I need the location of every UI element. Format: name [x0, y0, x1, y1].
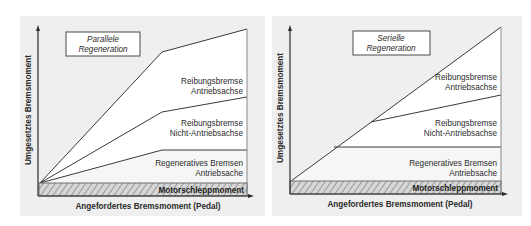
engine-drag-label: Motorschleppmoment: [158, 186, 244, 195]
region-label-friction-drive-l1: Reibungsbremse: [181, 77, 243, 86]
regeneration-comparison-figure: Motorschleppmoment Parallele Regeneratio…: [0, 0, 531, 226]
diagram-title-line2: Regeneration: [78, 45, 128, 54]
engine-drag-label: Motorschleppmoment: [412, 184, 498, 193]
diagram-serial-regeneration: Motorschleppmoment Serielle Regeneration…: [272, 16, 522, 216]
y-axis-label: Umgesetztes Bremsmoment: [24, 55, 33, 165]
region-label-friction-drive-l2: Antriebsachse: [191, 87, 243, 96]
diagram-title-line1: Serielle: [377, 34, 405, 43]
x-axis-label: Angefordertes Bremsmoment (Pedal): [75, 202, 220, 211]
y-axis-label: Umgesetztes Bremsmoment: [276, 53, 285, 163]
region-label-friction-nondrive-l2: Nicht-Antriebsachse: [424, 129, 498, 138]
region-label-friction-nondrive-l1: Reibungsbremse: [435, 119, 497, 128]
region-label-regen-l2: Antriebsache: [449, 169, 497, 178]
region-label-friction-nondrive-l2: Nicht-Antriebsachse: [170, 129, 244, 138]
region-label-friction-drive-l2: Antriebsachse: [445, 83, 497, 92]
diagram-canvas: Motorschleppmoment Parallele Regeneratio…: [0, 0, 531, 226]
diagram-title-line1: Parallele: [87, 35, 119, 44]
region-label-regen-l1: Regeneratives Bremsen: [155, 159, 243, 168]
region-label-friction-nondrive-l1: Reibungsbremse: [181, 119, 243, 128]
region-label-regen-l1: Regeneratives Bremsen: [409, 159, 497, 168]
region-label-friction-drive-l1: Reibungsbremse: [435, 73, 497, 82]
diagram-title-line2: Regeneration: [366, 44, 416, 53]
x-axis-label: Angefordertes Bremsmoment (Pedal): [327, 200, 472, 209]
diagram-parallel-regeneration: Motorschleppmoment Parallele Regeneratio…: [20, 16, 265, 216]
region-label-regen-l2: Antriebsache: [195, 169, 243, 178]
